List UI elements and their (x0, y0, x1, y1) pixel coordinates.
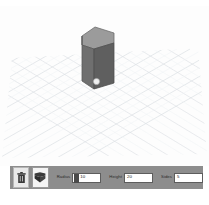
pentagonal-prism-object[interactable] (64, 23, 126, 99)
sides-value: 5 (175, 175, 179, 179)
sides-label: Sides (161, 175, 172, 179)
caption-strip (0, 192, 209, 202)
radius-field[interactable]: Radius 10 (57, 173, 102, 183)
prism-svg (64, 23, 126, 99)
shape-parameters-toolbar[interactable]: Radius 10 Height 20 Sides 5 (10, 166, 203, 189)
radius-stepper[interactable] (74, 174, 79, 183)
sides-input[interactable]: 5 (174, 173, 203, 183)
delete-button[interactable] (13, 167, 29, 188)
radius-label: Radius (57, 175, 71, 179)
height-field[interactable]: Height 20 (109, 173, 153, 183)
resize-handle[interactable] (93, 78, 99, 84)
trash-icon (17, 172, 26, 184)
height-label: Height (109, 175, 122, 179)
app-root: Radius 10 Height 20 Sides 5 (0, 0, 209, 205)
height-value: 20 (125, 175, 132, 179)
radius-input[interactable]: 10 (72, 173, 101, 183)
workplane-viewport[interactable] (0, 6, 209, 166)
height-input[interactable]: 20 (124, 173, 153, 183)
sides-field[interactable]: Sides 5 (161, 173, 203, 183)
prism-icon (34, 172, 46, 183)
shape-tool-button[interactable] (32, 167, 48, 188)
